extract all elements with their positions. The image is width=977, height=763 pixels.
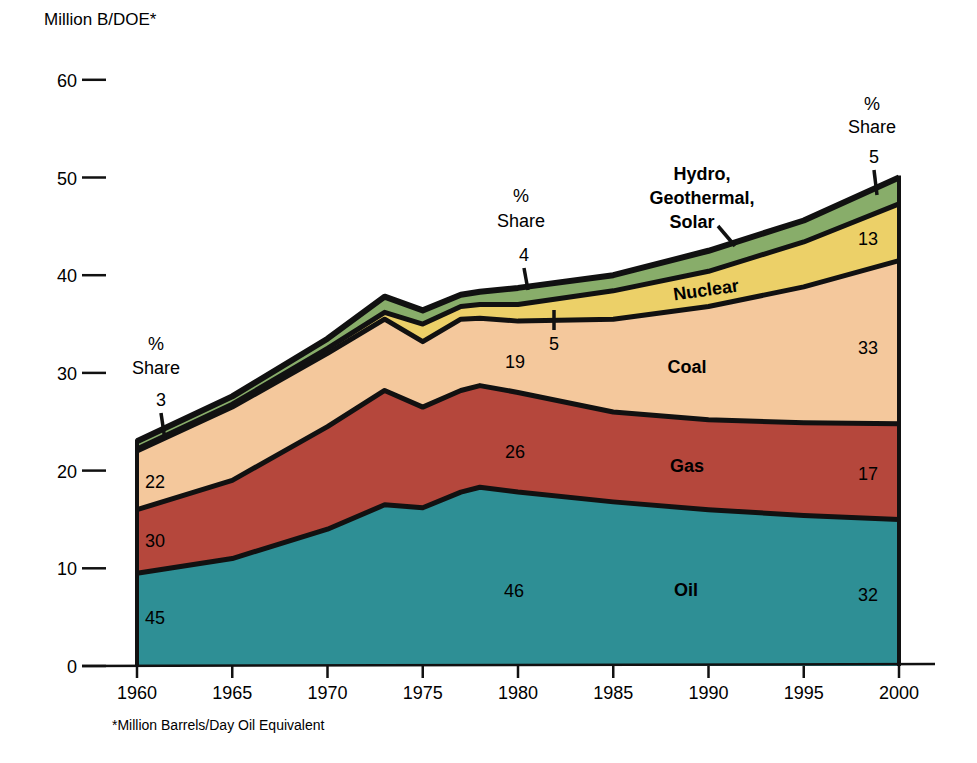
x-tick-label: 1960 [117, 683, 157, 703]
x-tick-label: 2000 [879, 683, 919, 703]
footnote: *Million Barrels/Day Oil Equivalent [112, 717, 325, 733]
y-tick-label: 20 [57, 462, 77, 482]
share-hydro-1980: 4 [519, 245, 529, 265]
y-tick-label: 10 [57, 559, 77, 579]
share-gas-2000: 17 [858, 464, 878, 484]
series-label-gas: Gas [670, 456, 704, 476]
share-pct-1980: % [513, 186, 529, 206]
share-hydro-1960: 3 [156, 390, 166, 410]
share-heading-1960: Share [132, 358, 180, 378]
share-coal-2000: 33 [858, 338, 878, 358]
series-label-hydro-3: Solar [669, 212, 714, 232]
x-tick-label: 1965 [212, 683, 252, 703]
share-oil-1980: 46 [504, 581, 524, 601]
share-heading-1980: Share [497, 211, 545, 231]
x-tick-label: 1990 [688, 683, 728, 703]
x-tick-label: 1975 [403, 683, 443, 703]
share-oil-1960: 45 [145, 608, 165, 628]
x-tick-label: 1995 [784, 683, 824, 703]
y-tick-label: 30 [57, 364, 77, 384]
x-tick-label: 1980 [498, 683, 538, 703]
y-tick-label: 50 [57, 169, 77, 189]
x-tick-label: 1985 [593, 683, 633, 703]
series-label-oil: Oil [674, 580, 698, 600]
x-tick-label: 1970 [307, 683, 347, 703]
y-axis-title: Million B/DOE* [44, 10, 157, 29]
share-gas-1980: 26 [505, 442, 525, 462]
share-gas-1960: 30 [145, 531, 165, 551]
y-tick-label: 0 [67, 657, 77, 677]
share-heading-2000: Share [848, 117, 896, 137]
series-label-coal: Coal [667, 357, 706, 377]
y-tick-label: 40 [57, 266, 77, 286]
share-pct-1960: % [148, 334, 164, 354]
energy-stacked-area-chart: 0102030405060196019651970197519801985199… [0, 0, 977, 763]
share-nuclear-1980: 5 [549, 334, 559, 354]
series-label-hydro-2: Geothermal, [649, 188, 754, 208]
share-pct-2000: % [864, 94, 880, 114]
share-coal-1960: 22 [145, 472, 165, 492]
share-oil-2000: 32 [858, 585, 878, 605]
y-tick-label: 60 [57, 71, 77, 91]
series-label-hydro-1: Hydro, [673, 164, 730, 184]
share-hydro-2000: 5 [869, 147, 879, 167]
share-nuclear-2000: 13 [858, 229, 878, 249]
share-coal-1980: 19 [505, 352, 525, 372]
